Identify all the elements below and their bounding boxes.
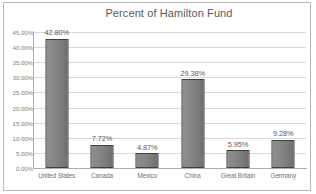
chart-container: Percent of Hamilton Fund 42.80%7.72%4.87…	[0, 0, 316, 194]
y-axis-tick-label: 30.00%	[1, 74, 33, 81]
y-axis-tick-label: 15.00%	[1, 119, 33, 126]
y-axis-tick-labels: 0.00%5.00%10.00%15.00%20.00%25.00%30.00%…	[0, 0, 33, 194]
x-axis-category-label: United States	[34, 172, 79, 179]
y-axis-tick-label: 20.00%	[1, 104, 33, 111]
y-axis-tick-label: 40.00%	[1, 44, 33, 51]
y-axis-tick-label: 10.00%	[1, 134, 33, 141]
x-axis-category-label: Mexico	[125, 172, 170, 179]
y-axis-tick-label: 5.00%	[1, 149, 33, 156]
y-axis-tick-label: 25.00%	[1, 89, 33, 96]
y-axis-tick-label: 35.00%	[1, 59, 33, 66]
x-axis-category-label: Canada	[79, 172, 124, 179]
x-axis-category-labels: United StatesCanadaMexicoChinaGreat Brit…	[34, 0, 306, 194]
x-axis-category-label: Great Britain	[215, 172, 260, 179]
y-axis-tick-label: 0.00%	[1, 165, 33, 172]
y-axis-tick-label: 45.00%	[1, 29, 33, 36]
x-axis-category-label: Germany	[261, 172, 306, 179]
x-axis-category-label: China	[170, 172, 215, 179]
